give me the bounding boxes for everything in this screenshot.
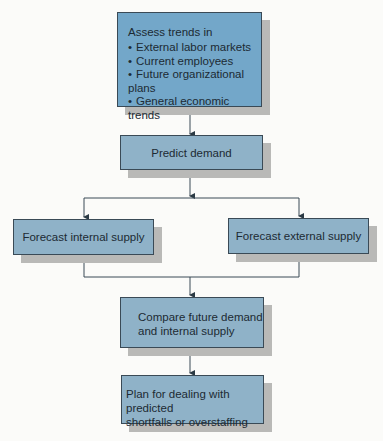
list-item: Current employees bbox=[128, 55, 261, 69]
predict-demand-label: Predict demand bbox=[151, 147, 232, 159]
plan-box: Plan for dealing with predicted shortfal… bbox=[121, 375, 264, 424]
forecast-external-box: Forecast external supply bbox=[228, 218, 369, 254]
compare-line-2: and internal supply bbox=[138, 324, 263, 338]
compare-box: Compare future demand and internal suppl… bbox=[120, 297, 264, 348]
assess-trends-box: Assess trends in External labor markets … bbox=[117, 12, 262, 107]
plan-line-2: shortfalls or overstaffing bbox=[126, 415, 263, 429]
forecast-internal-label: Forecast internal supply bbox=[22, 231, 144, 243]
forecast-external-label: Forecast external supply bbox=[236, 230, 361, 242]
list-item: External labor markets bbox=[128, 41, 261, 55]
predict-demand-box: Predict demand bbox=[120, 135, 263, 170]
forecast-internal-box: Forecast internal supply bbox=[13, 219, 154, 255]
assess-trends-title: Assess trends in bbox=[128, 25, 261, 39]
assess-trends-list: External labor markets Current employees… bbox=[128, 41, 261, 122]
list-item: General economic trends bbox=[128, 95, 261, 122]
compare-line-1: Compare future demand bbox=[138, 310, 263, 324]
list-item: Future organizational plans bbox=[128, 68, 261, 95]
plan-line-1: Plan for dealing with predicted bbox=[126, 387, 263, 415]
